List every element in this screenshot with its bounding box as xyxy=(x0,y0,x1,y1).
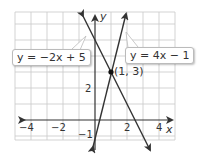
x-axis-label: x xyxy=(166,123,173,136)
equation-callout-2: y = 4x − 1 xyxy=(125,47,194,64)
line-y-eq-neg2x-plus5 xyxy=(83,16,150,150)
coordinate-plane xyxy=(0,0,203,165)
point-label: (1, 3) xyxy=(114,65,144,78)
equation-1-text: y = −2x + 5 xyxy=(17,51,86,64)
y-tick-2: 2 xyxy=(85,83,91,94)
equation-callout-1: y = −2x + 5 xyxy=(12,49,91,66)
x-tick-2: 2 xyxy=(124,122,130,133)
y-tick-neg1: −1 xyxy=(78,129,93,140)
x-tick-4: 4 xyxy=(156,122,162,133)
line-y-eq-4x-minus1 xyxy=(93,14,126,147)
x-tick-neg2: −2 xyxy=(51,122,66,133)
y-axis-label: y xyxy=(100,10,107,23)
intersection-point xyxy=(108,69,113,74)
x-tick-neg4: −4 xyxy=(19,122,34,133)
equation-2-text: y = 4x − 1 xyxy=(130,49,189,62)
